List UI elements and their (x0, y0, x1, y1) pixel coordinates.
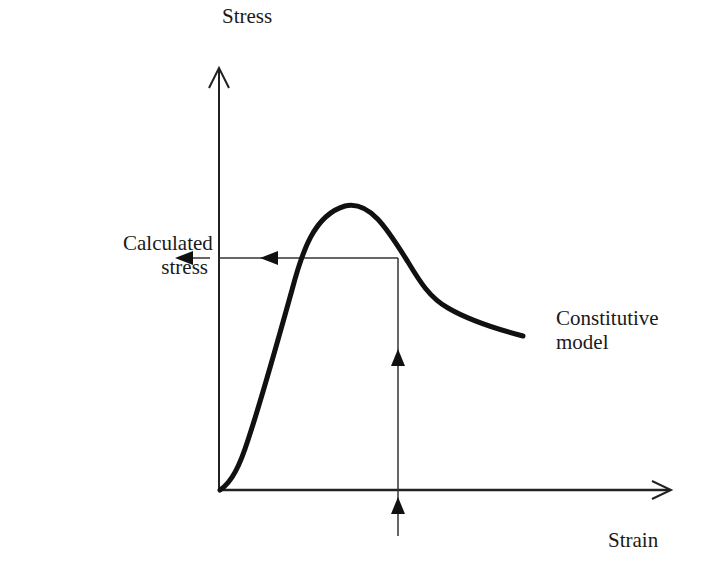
constitutive-model-curve (220, 205, 523, 490)
up-arrowhead-icon (391, 497, 405, 514)
x-axis (219, 481, 671, 499)
calculated-stress-label-line2: stress (123, 255, 208, 279)
x-axis-label: Strain (608, 528, 658, 552)
constitutive-model-label-line2: model (556, 330, 659, 354)
left-arrowhead-icon (260, 251, 278, 265)
calculated-stress-label-line1: Calculated (123, 231, 208, 255)
stress-strain-diagram (0, 0, 726, 575)
constitutive-model-label: Constitutive model (556, 306, 659, 354)
calculated-stress-label: Calculated stress (123, 231, 208, 279)
constitutive-model-label-line1: Constitutive (556, 306, 659, 330)
y-axis-label: Stress (222, 4, 272, 28)
y-axis (209, 68, 229, 490)
strain-input-guide (391, 258, 405, 536)
up-arrowhead-icon (391, 349, 405, 366)
